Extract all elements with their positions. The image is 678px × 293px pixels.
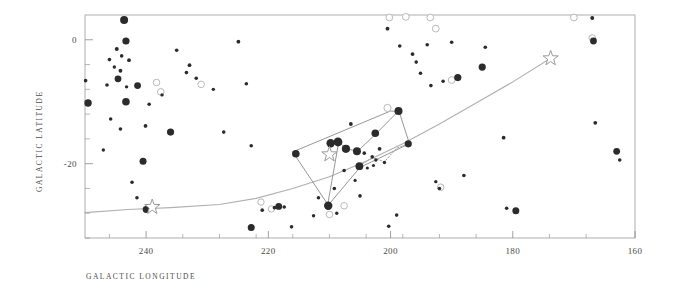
x-tick-label: 160 [628, 246, 643, 256]
faint-star-marker [245, 82, 249, 86]
bright-star-marker [248, 224, 255, 231]
open-circle-marker [402, 13, 409, 20]
faint-star-marker [212, 88, 215, 91]
bright-star-marker [590, 16, 594, 20]
bright-star-marker [355, 162, 363, 170]
faint-star-marker [354, 179, 357, 182]
faint-star-marker [387, 224, 391, 228]
bright-star-marker [454, 74, 461, 81]
scatter-plot-svg: 2402202001801600-20 GALACTIC LONGITUDE G… [0, 0, 678, 293]
bright-star-marker [342, 145, 350, 153]
open-circle-marker [570, 14, 577, 21]
faint-star-marker [317, 196, 321, 200]
faint-star-marker [335, 212, 338, 215]
faint-star-marker [175, 49, 179, 53]
faint-star-marker [593, 121, 597, 125]
bright-star-marker [613, 148, 620, 155]
faint-star-marker [358, 194, 362, 198]
faint-star-marker [120, 54, 124, 58]
bright-star-marker [405, 140, 412, 147]
bright-star-marker [371, 130, 379, 138]
faint-star-marker [115, 47, 119, 51]
x-tick-label: 180 [505, 246, 520, 256]
faint-star-marker [438, 187, 442, 191]
chart-figure: 2402202001801600-20 GALACTIC LONGITUDE G… [0, 0, 678, 293]
faint-star-marker [194, 76, 198, 80]
faint-star-marker [119, 69, 123, 73]
faint-star-marker [349, 122, 353, 126]
open-circle-marker [153, 79, 160, 86]
faint-star-marker [109, 117, 113, 121]
bright-star-marker [334, 138, 343, 147]
bright-star-marker [479, 63, 486, 70]
open-circle-marker [198, 81, 205, 88]
x-tick-label: 200 [383, 246, 398, 256]
bright-star-marker [140, 158, 147, 165]
figure-background [0, 0, 678, 293]
bright-star-marker [275, 203, 282, 210]
faint-star-marker [84, 79, 88, 83]
faint-star-marker [222, 130, 226, 134]
faint-star-marker [425, 43, 429, 47]
faint-star-marker [429, 84, 433, 88]
bright-star-marker [84, 99, 91, 106]
faint-star-marker [144, 124, 148, 128]
faint-star-marker [374, 158, 377, 161]
faint-star-marker [366, 166, 369, 169]
open-circle-marker [341, 202, 348, 209]
faint-star-marker [130, 180, 134, 184]
bright-star-marker [167, 128, 174, 135]
faint-star-marker [414, 60, 418, 64]
faint-star-marker [119, 127, 123, 131]
open-circle-marker [326, 211, 333, 218]
faint-star-marker [362, 151, 366, 155]
bright-star-marker [122, 98, 130, 106]
bright-star-marker [122, 37, 129, 44]
bright-star-marker [115, 75, 122, 82]
bright-star-marker [395, 107, 403, 115]
faint-star-marker [450, 40, 454, 44]
faint-star-marker [411, 52, 415, 56]
open-circle-marker [386, 14, 393, 21]
faint-star-marker [260, 208, 264, 212]
faint-star-marker [502, 136, 506, 140]
faint-star-marker [441, 79, 445, 83]
faint-star-marker [113, 65, 116, 68]
faint-star-marker [290, 225, 294, 229]
faint-star-marker [125, 85, 128, 88]
faint-star-marker [135, 196, 139, 200]
faint-star-marker [160, 93, 163, 96]
open-circle-marker [448, 77, 455, 84]
faint-star-marker [127, 58, 131, 62]
open-circle-marker [432, 25, 439, 32]
faint-star-marker [282, 205, 286, 209]
faint-star-marker [462, 174, 466, 178]
x-axis-title: GALACTIC LONGITUDE [86, 272, 196, 281]
faint-star-marker [505, 206, 509, 210]
faint-star-marker [108, 58, 112, 62]
faint-star-marker [398, 44, 402, 48]
y-tick-label: 0 [72, 35, 77, 45]
faint-star-marker [188, 63, 192, 67]
bright-star-marker [120, 16, 128, 24]
bright-star-marker [353, 147, 361, 155]
faint-star-marker [342, 169, 346, 173]
y-tick-label: -20 [64, 159, 77, 169]
faint-star-marker [102, 148, 105, 151]
bright-star-marker [292, 150, 300, 158]
faint-star-marker [105, 83, 109, 87]
faint-star-marker [395, 213, 399, 217]
faint-star-marker [434, 180, 437, 183]
bright-star-marker [590, 38, 597, 45]
faint-star-marker [236, 40, 240, 44]
faint-star-marker [249, 144, 253, 148]
faint-star-marker [312, 214, 315, 217]
x-tick-label: 220 [261, 246, 276, 256]
faint-star-marker [618, 158, 622, 162]
faint-star-marker [185, 71, 189, 75]
faint-star-marker [383, 161, 386, 164]
faint-star-marker [147, 102, 151, 106]
faint-star-marker [370, 155, 374, 159]
bright-star-marker [324, 202, 332, 210]
x-tick-label: 240 [139, 246, 154, 256]
